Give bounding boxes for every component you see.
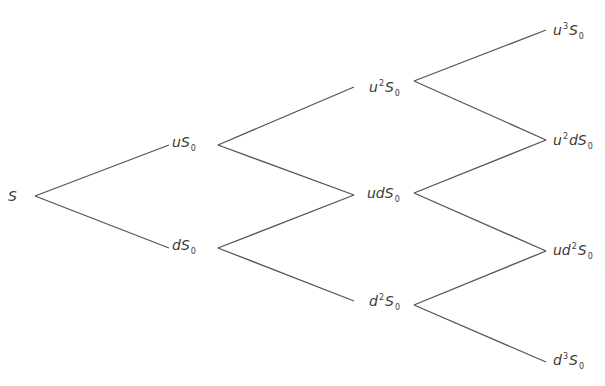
tree-edge-n1d-n2dd: [218, 248, 354, 301]
node-subscript: 0: [395, 195, 400, 204]
node-subscript: 0: [579, 32, 584, 41]
node-base: u: [553, 132, 562, 148]
node-base: d: [553, 352, 562, 368]
node-subscript: 0: [191, 144, 196, 153]
node-base: d: [369, 293, 378, 309]
node-symbol: S: [569, 352, 578, 368]
tree-node-n3uud: u2dS0: [553, 129, 593, 155]
node-exponent: 2: [563, 132, 568, 141]
tree-node-n1u: uS0: [172, 134, 196, 157]
node-base: u: [369, 79, 378, 95]
node-base: u: [172, 134, 181, 150]
node-symbol: S: [385, 293, 394, 309]
tree-edge-n2ud-n3udd: [414, 193, 546, 251]
node-exponent: 3: [563, 22, 568, 31]
node-base: u: [553, 22, 562, 38]
node-base: d: [172, 237, 181, 253]
tree-node-n1d: dS0: [172, 237, 196, 260]
node-symbol: S: [578, 242, 587, 258]
tree-node-n2dd: d2S0: [369, 290, 400, 316]
tree-node-n3ddd: d3S0: [553, 349, 584, 375]
node-base: S: [8, 188, 17, 204]
tree-edge-n2ud-n3uud: [414, 140, 546, 193]
tree-node-n3uuu: u3S0: [553, 19, 584, 45]
binomial-tree-diagram: [0, 0, 605, 386]
node-subscript: 0: [588, 252, 593, 261]
node-symbol: S: [385, 79, 394, 95]
node-subscript: 0: [395, 89, 400, 98]
node-exponent: 2: [379, 293, 384, 302]
node-base: ud: [367, 185, 385, 201]
node-symbol: S: [569, 22, 578, 38]
node-subscript: 0: [588, 142, 593, 151]
tree-edge-n1u-n2uu: [218, 87, 354, 145]
tree-edge-n2uu-n3uud: [414, 81, 546, 140]
node-mid: d: [569, 132, 578, 148]
node-symbol: S: [181, 134, 190, 150]
node-symbol: S: [385, 185, 394, 201]
node-symbol: S: [181, 237, 190, 253]
node-subscript: 0: [395, 303, 400, 312]
tree-edge-n0-n1u: [35, 145, 169, 196]
tree-edge-n1u-n2ud: [218, 145, 354, 195]
tree-node-n2uu: u2S0: [369, 76, 400, 102]
tree-edge-n1d-n2ud: [218, 195, 354, 248]
node-symbol: S: [578, 132, 587, 148]
tree-node-n0: S: [8, 188, 17, 204]
tree-edge-n2dd-n3ddd: [414, 305, 546, 362]
node-exponent: 2: [572, 242, 577, 251]
node-subscript: 0: [579, 362, 584, 371]
tree-node-n2ud: udS0: [367, 185, 400, 208]
tree-edge-n2dd-n3udd: [414, 251, 546, 305]
node-exponent: 3: [563, 352, 568, 361]
node-exponent: 2: [379, 79, 384, 88]
node-subscript: 0: [191, 247, 196, 256]
tree-edge-n2uu-n3uuu: [414, 30, 546, 81]
tree-node-n3udd: ud2S0: [553, 239, 593, 265]
tree-edge-n0-n1d: [35, 196, 169, 248]
node-base: ud: [553, 242, 571, 258]
